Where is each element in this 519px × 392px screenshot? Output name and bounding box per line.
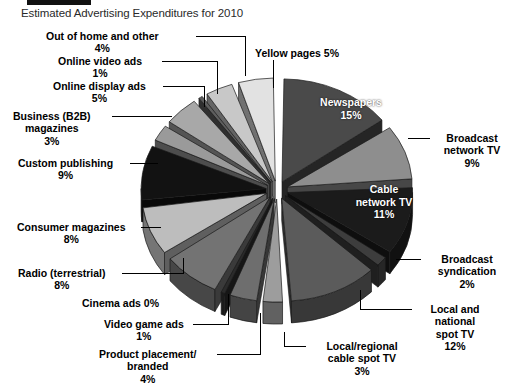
callout-value: 1% bbox=[104, 330, 184, 342]
callout-local-regional-cable-spot-tv: Local/regional cable spot TV 3% bbox=[307, 340, 417, 377]
callout-out-of-home-and-other: Out of home and other 4% bbox=[46, 30, 159, 55]
leader-line-online-display-v bbox=[204, 86, 205, 107]
callout-label-line1: Local and bbox=[414, 303, 496, 315]
callout-label-line3: spot TV bbox=[414, 328, 496, 340]
callout-value: 9% bbox=[18, 169, 113, 181]
callout-value: 2% bbox=[423, 278, 511, 290]
leader-line-yellow-pages bbox=[273, 60, 274, 88]
callout-label-line1: Product placement/ bbox=[99, 348, 196, 360]
leader-line-online-video bbox=[162, 61, 218, 62]
callout-consumer-magazines: Consumer magazines 8% bbox=[17, 221, 126, 246]
callout-label: Online display ads bbox=[53, 80, 146, 92]
leader-line-radio bbox=[122, 273, 184, 274]
slice-label-value: 11% bbox=[344, 208, 424, 221]
leader-line-out-of-home-v bbox=[245, 36, 246, 76]
callout-online-video-ads: Online video ads 1% bbox=[58, 55, 142, 80]
leader-line-local-regional-v bbox=[284, 332, 285, 347]
leader-line-online-video-v bbox=[217, 61, 218, 94]
callout-custom-publishing: Custom publishing 9% bbox=[18, 157, 113, 182]
callout-local-and-national-spot-tv: Local and national spot TV 12% bbox=[414, 303, 496, 353]
callout-video-game-ads: Video game ads 1% bbox=[104, 318, 184, 343]
slice-label-newspapers: Newspapers 15% bbox=[303, 96, 399, 121]
leader-line-online-display bbox=[163, 86, 205, 87]
callout-label: Custom publishing bbox=[18, 157, 113, 169]
callout-label: Video game ads bbox=[104, 318, 184, 330]
callout-label: Radio (terrestrial) bbox=[18, 267, 106, 279]
callout-value: 8% bbox=[17, 233, 126, 245]
leader-line-b2b bbox=[112, 116, 172, 117]
slice-label-value: 15% bbox=[303, 109, 399, 122]
callout-product-placement-branded: Product placement/ branded 4% bbox=[99, 348, 196, 385]
callout-value: 4% bbox=[46, 42, 159, 54]
leader-line-custom-publishing bbox=[130, 163, 158, 164]
callout-label-line2: cable spot TV bbox=[307, 352, 417, 364]
slice-label-line1: Cable bbox=[344, 183, 424, 196]
leader-line-broadcast-syndication bbox=[396, 259, 421, 260]
callout-label-line2: network TV bbox=[431, 144, 513, 156]
slice-label-name: Newspapers bbox=[303, 96, 399, 109]
leader-line-video-game bbox=[193, 324, 229, 325]
callout-label-line1: Broadcast bbox=[423, 253, 511, 265]
callout-cinema-ads: Cinema ads 0% bbox=[82, 297, 159, 309]
leader-line-local-regional bbox=[284, 346, 306, 347]
callout-label-line1: Business (B2B) bbox=[13, 110, 91, 122]
callout-label-line1: Broadcast bbox=[431, 132, 513, 144]
leader-line-local-national-v bbox=[360, 290, 361, 310]
leader-line-radio-v bbox=[183, 258, 184, 274]
callout-value: 12% bbox=[414, 340, 496, 352]
slice-label-cable-network-tv: Cable network TV 11% bbox=[344, 183, 424, 221]
leader-line-local-national bbox=[360, 309, 412, 310]
callout-value: 3% bbox=[307, 365, 417, 377]
callout-value: 3% bbox=[13, 135, 91, 147]
leader-line-video-game-v bbox=[228, 294, 229, 325]
callout-business-b2b-magazines: Business (B2B) magazines 3% bbox=[13, 110, 91, 147]
callout-label: Consumer magazines bbox=[17, 221, 126, 233]
callout-value: 8% bbox=[18, 279, 106, 291]
callout-online-display-ads: Online display ads 5% bbox=[53, 80, 146, 105]
leader-line-consumer-magazines bbox=[141, 227, 161, 228]
leader-line-product-placement-v bbox=[260, 313, 261, 355]
slice-label-line2: network TV bbox=[344, 196, 424, 209]
callout-value: 1% bbox=[58, 67, 142, 79]
callout-broadcast-syndication: Broadcast syndication 2% bbox=[423, 253, 511, 290]
callout-value: 4% bbox=[99, 373, 196, 385]
callout-label-line2: branded bbox=[99, 360, 196, 372]
callout-label-line2: syndication bbox=[423, 265, 511, 277]
callout-label-line2: national bbox=[414, 315, 496, 327]
callout-value: 9% bbox=[431, 157, 513, 169]
leader-line-out-of-home bbox=[196, 36, 246, 37]
callout-label: Out of home and other bbox=[46, 30, 159, 42]
callout-label-line2: magazines bbox=[13, 122, 91, 134]
callout-broadcast-network-tv: Broadcast network TV 9% bbox=[431, 132, 513, 169]
callout-yellow-pages: Yellow pages 5% bbox=[255, 47, 339, 59]
leader-line-broadcast-network bbox=[408, 138, 430, 139]
leader-line-product-placement bbox=[217, 354, 261, 355]
callout-radio-terrestrial: Radio (terrestrial) 8% bbox=[18, 267, 106, 292]
callout-value: 5% bbox=[53, 92, 146, 104]
chart-canvas: Estimated Advertising Expenditures for 2… bbox=[0, 0, 519, 392]
callout-label-line1: Local/regional bbox=[307, 340, 417, 352]
callout-label: Online video ads bbox=[58, 55, 142, 67]
